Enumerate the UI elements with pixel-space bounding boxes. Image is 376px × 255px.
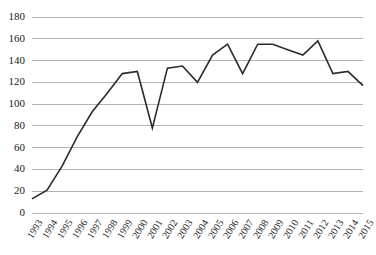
chart-plot-area [0,0,376,255]
y-axis-tick-label: 0 [0,207,25,218]
y-axis-tick-label: 60 [0,142,25,153]
y-axis-tick-label: 80 [0,120,25,131]
y-axis-tick-label: 180 [0,11,25,22]
y-axis-tick-label: 40 [0,163,25,174]
y-axis-tick-label: 140 [0,55,25,66]
y-axis-tick-label: 100 [0,98,25,109]
gridlines [32,17,363,213]
y-axis-tick-label: 160 [0,33,25,44]
y-axis-tick-label: 20 [0,185,25,196]
data-series-line [32,41,363,199]
line-chart: 020406080100120140160180 199319941995199… [0,0,376,255]
y-axis-tick-label: 120 [0,76,25,87]
